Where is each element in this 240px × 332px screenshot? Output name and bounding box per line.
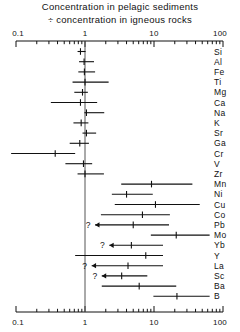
range-bar-Mg xyxy=(74,89,88,96)
range-bar-Cr xyxy=(11,150,75,157)
range-bar-La xyxy=(92,262,163,269)
range-bar-K xyxy=(73,120,88,127)
range-bar-Pb xyxy=(95,222,169,229)
range-bar-Yb xyxy=(109,242,163,249)
range-bar-V xyxy=(65,160,92,167)
left-arrow-head xyxy=(109,243,113,248)
range-bar-Y xyxy=(75,252,163,259)
left-arrow-head xyxy=(92,263,96,268)
plot-area xyxy=(0,0,240,332)
range-bar-B xyxy=(153,293,209,300)
range-bar-Cu xyxy=(115,201,200,208)
range-bar-Zr xyxy=(78,171,104,178)
range-bar-Ca xyxy=(51,99,97,106)
range-bar-Mo xyxy=(151,232,210,239)
left-arrow-head xyxy=(102,273,106,278)
range-bar-Al xyxy=(79,58,94,65)
range-bar-Ni xyxy=(112,191,153,198)
left-arrow-head xyxy=(95,222,99,227)
range-bar-Co xyxy=(101,211,170,218)
range-bar-Ti xyxy=(73,79,109,86)
range-bar-Na xyxy=(84,109,104,116)
range-bar-Sc xyxy=(102,273,148,280)
range-bar-Ba xyxy=(102,283,176,290)
range-bar-Ga xyxy=(70,140,89,147)
range-bar-Si xyxy=(78,48,86,55)
concentration-ratio-chart: Concentration in pelagic sediments ÷ con… xyxy=(0,0,240,332)
range-bar-Fe xyxy=(78,69,95,76)
range-bar-Mn xyxy=(121,181,192,188)
